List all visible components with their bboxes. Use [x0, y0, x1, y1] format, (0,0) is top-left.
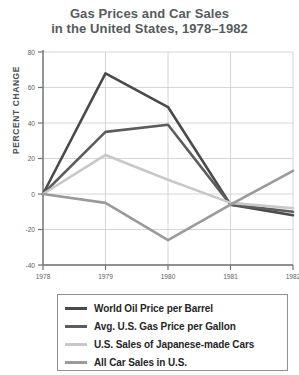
x-tick-label: 1982 — [286, 273, 299, 280]
chart-title: Gas Prices and Car Sales in the United S… — [0, 6, 299, 36]
legend-item-world-oil-price: World Oil Price per Barrel — [58, 299, 287, 317]
y-tick-label: -40 — [25, 262, 35, 269]
legend-item-gas-price: Avg. U.S. Gas Price per Gallon — [58, 317, 287, 335]
legend-swatch-gas-price — [65, 325, 87, 328]
x-tick-label: 1979 — [98, 273, 113, 280]
y-tick-label: 80 — [28, 49, 36, 56]
legend-label-japanese-cars: U.S. Sales of Japanese-made Cars — [94, 339, 254, 350]
legend-swatch-all-car-sales — [65, 361, 87, 364]
legend-label-all-car-sales: All Car Sales in U.S. — [94, 357, 187, 368]
legend-label-world-oil-price: World Oil Price per Barrel — [94, 303, 213, 314]
legend-item-japanese-cars: U.S. Sales of Japanese-made Cars — [58, 335, 287, 353]
y-tick-label: 60 — [28, 84, 36, 91]
legend-swatch-japanese-cars — [65, 343, 87, 346]
x-tick-label: 1980 — [161, 273, 176, 280]
y-tick-label: 40 — [28, 120, 36, 127]
chart-title-line-1: Gas Prices and Car Sales — [0, 6, 299, 21]
x-tick-labels: 19781979198019811982 — [36, 273, 299, 280]
chart-title-line-2: in the United States, 1978–1982 — [0, 21, 299, 36]
legend-item-all-car-sales: All Car Sales in U.S. — [58, 353, 287, 371]
y-tick-label: -20 — [25, 226, 35, 233]
x-tick-label: 1978 — [36, 273, 51, 280]
legend-swatch-world-oil-price — [65, 307, 87, 310]
chart-figure: Gas Prices and Car Sales in the United S… — [0, 0, 299, 375]
chart-legend: World Oil Price per Barrel Avg. U.S. Gas… — [57, 294, 288, 371]
plot-area: 806040200-20-40 19781979198019811982 — [0, 38, 299, 286]
y-tick-label: 0 — [31, 191, 35, 198]
y-tick-label: 20 — [28, 155, 36, 162]
legend-label-gas-price: Avg. U.S. Gas Price per Gallon — [94, 321, 236, 332]
x-tick-label: 1981 — [223, 273, 238, 280]
y-tick-labels: 806040200-20-40 — [25, 49, 35, 269]
